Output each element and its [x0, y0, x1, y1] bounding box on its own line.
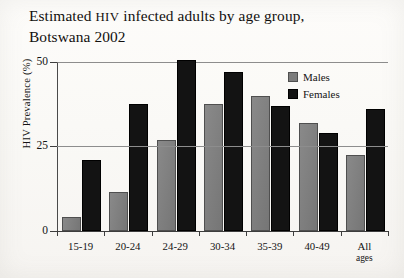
y-tick-mark-50 — [50, 62, 57, 63]
x-category-label-line2: ages — [334, 252, 394, 264]
x-category-label-line1: 24-29 — [163, 240, 188, 252]
bar-group — [200, 63, 247, 231]
x-tick-mark — [388, 231, 389, 236]
x-tick-mark — [293, 231, 294, 236]
gridline-25 — [57, 146, 388, 147]
legend-swatch-males-icon — [288, 72, 298, 82]
title-acronym: HIV — [95, 10, 119, 24]
legend-label-females: Females — [303, 87, 340, 102]
x-tick-mark — [341, 231, 342, 236]
x-category-label-line1: All — [357, 240, 371, 252]
bar-males-all-ages — [346, 155, 365, 231]
bar-females-30-34 — [224, 72, 243, 231]
title-line2: Botswana 2002 — [29, 27, 379, 46]
legend-item-females[interactable]: Females — [288, 87, 340, 102]
x-category-label-line1: 30-34 — [210, 240, 235, 252]
bar-males-35-39 — [251, 96, 270, 231]
x-category-label-line1: 15-19 — [68, 240, 93, 252]
bar-males-15-19 — [62, 217, 81, 231]
bar-males-30-34 — [204, 104, 223, 231]
bar-females-35-39 — [271, 106, 290, 231]
x-category-label-line1: 35-39 — [257, 240, 282, 252]
y-tick-label-0: 0 — [22, 224, 48, 236]
bar-group — [153, 63, 200, 231]
legend-item-males[interactable]: Males — [288, 70, 340, 85]
legend-swatch-females-icon — [288, 89, 298, 99]
x-tick-mark — [57, 231, 58, 236]
x-tick-mark — [152, 231, 153, 236]
x-category-label-line1: 20-24 — [115, 240, 140, 252]
x-category-label-line1: 40-49 — [304, 240, 329, 252]
chart-figure: Estimated HIV infected adults by age gro… — [0, 0, 404, 278]
chart-title: Estimated HIV infected adults by age gro… — [29, 6, 379, 46]
y-axis-title: HIV Prevalence (%) — [21, 34, 32, 174]
y-tick-mark-0 — [50, 231, 57, 232]
x-tick-mark — [246, 231, 247, 236]
bar-females-20-24 — [129, 104, 148, 231]
bar-group — [342, 63, 389, 231]
x-tick-mark — [104, 231, 105, 236]
title-part1: Estimated — [29, 7, 95, 24]
legend-label-males: Males — [303, 70, 330, 85]
bar-males-40-49 — [299, 123, 318, 231]
title-part2: infected adults by age group, — [119, 7, 304, 24]
bar-group — [105, 63, 152, 231]
y-tick-mark-25 — [50, 146, 57, 147]
bar-group — [58, 63, 105, 231]
x-tick-mark — [199, 231, 200, 236]
x-category-label: Allages — [334, 240, 394, 264]
chart-legend: Males Females — [288, 70, 340, 103]
bar-females-40-49 — [319, 133, 338, 231]
bar-females-all-ages — [366, 109, 385, 231]
bar-females-15-19 — [82, 160, 101, 231]
bar-males-20-24 — [109, 192, 128, 231]
x-axis-line — [57, 231, 389, 232]
bar-males-24-29 — [157, 140, 176, 231]
